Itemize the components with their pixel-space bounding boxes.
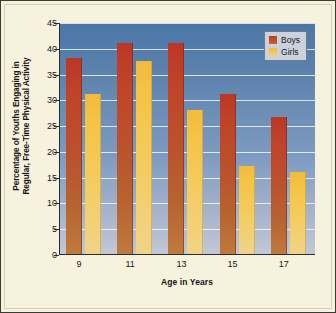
- x-axis-tick-label: 15: [218, 259, 248, 269]
- chart-figure: Percentage of Youths Engaging in Regular…: [0, 0, 336, 313]
- legend-label: Girls: [281, 47, 298, 57]
- plot-area: BoysGirls: [59, 23, 315, 255]
- legend-item-boys: Boys: [269, 35, 300, 45]
- x-axis-tick-label: 9: [64, 259, 94, 269]
- y-axis-tick-mark: [54, 255, 59, 256]
- bar-girls-age-9: [85, 94, 101, 254]
- x-axis-tick-label: 13: [166, 259, 196, 269]
- bar-girls-age-13: [187, 110, 203, 254]
- x-axis-tick-label: 11: [115, 259, 145, 269]
- bar-group: [214, 23, 265, 254]
- bar-girls-age-15: [239, 166, 255, 254]
- y-axis-title-line-1: Percentage of Youths Engaging in: [12, 61, 22, 190]
- bar-boys-age-15: [220, 94, 236, 254]
- bar-boys-age-9: [66, 58, 82, 254]
- legend-item-girls: Girls: [269, 47, 300, 57]
- bar-group: [60, 23, 111, 254]
- x-axis-tick-label: 17: [269, 259, 299, 269]
- girls-color-swatch: [269, 48, 277, 56]
- bar-girls-age-17: [290, 172, 306, 254]
- y-axis-title-line-2: Regular, Free-Time Physical Activity: [22, 58, 32, 195]
- x-axis-title: Age in Years: [59, 277, 315, 287]
- bar-group: [162, 23, 213, 254]
- bar-group: [111, 23, 162, 254]
- bar-boys-age-11: [117, 43, 133, 254]
- bar-boys-age-13: [168, 43, 184, 254]
- x-axis-tick-labels: 911131517: [59, 259, 315, 271]
- bar-girls-age-11: [136, 61, 152, 254]
- y-axis-title: Percentage of Youths Engaging in Regular…: [9, 1, 35, 251]
- bar-boys-age-17: [271, 117, 287, 254]
- legend-label: Boys: [281, 35, 300, 45]
- boys-color-swatch: [269, 36, 277, 44]
- chart-legend: BoysGirls: [264, 31, 307, 61]
